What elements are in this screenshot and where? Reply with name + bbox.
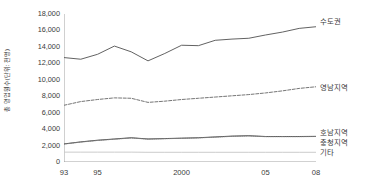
y-axis-title: 총 영업원수(단위: 천명) [0,0,14,160]
series-legend: 수도권영남지역호남지역충청지역기타 [318,0,385,195]
y-axis-tick-label: 12,000 [14,60,60,67]
y-axis-tick-label: 0 [14,158,60,165]
plot-area [64,14,316,162]
plot-svg [64,14,316,162]
series-line-3 [64,136,316,144]
x-axis-tick-label: 05 [261,168,269,177]
y-axis-tick-label: 10,000 [14,76,60,83]
y-axis-tick-label: 14,000 [14,43,60,50]
y-axis-title-text: 총 영업원수(단위: 천명) [3,48,12,111]
line-chart: 총 영업원수(단위: 천명) 02,0004,0006,0008,00010,0… [0,0,385,195]
x-axis-tick-label: 93 [60,168,68,177]
x-axis-tick-label: 2000 [173,168,190,177]
y-axis-tick-label: 4,000 [14,125,60,132]
series-line-1 [64,87,316,106]
y-axis-tick-labels: 02,0004,0006,0008,00010,00012,00014,0001… [14,0,60,195]
y-axis-tick-label: 18,000 [14,10,60,17]
y-axis-tick-label: 16,000 [14,27,60,34]
y-axis-tick-label: 8,000 [14,93,60,100]
x-axis-tick-label: 95 [93,168,101,177]
legend-swatches [318,0,385,195]
series-line-0 [64,27,316,61]
y-axis-tick-label: 6,000 [14,109,60,116]
y-axis-tick-label: 2,000 [14,142,60,149]
x-axis-tick-labels: 939520000508 [64,168,316,186]
